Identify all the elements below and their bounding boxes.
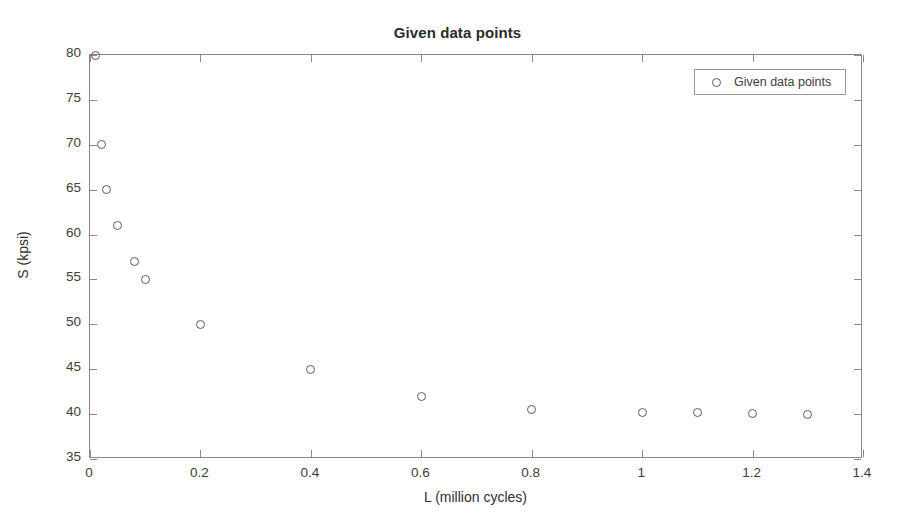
x-axis-tick [532,450,533,457]
y-axis-tick [90,459,97,460]
x-tick-label: 0.2 [169,465,229,480]
y-axis-tick [90,369,97,370]
legend-circle-marker-icon [712,78,721,87]
x-axis-tick [642,450,643,457]
y-axis-tick [90,279,97,280]
x-axis-tick [863,450,864,457]
x-axis-tick [90,450,91,457]
data-point-marker [196,320,205,329]
y-axis-tick-right [854,459,861,460]
y-axis-tick [90,190,97,191]
x-axis-tick-top [753,55,754,62]
x-tick-label: 1 [611,465,671,480]
data-point-marker [97,140,106,149]
y-tick-label: 75 [47,90,81,105]
y-tick-label: 70 [47,135,81,150]
y-tick-label: 80 [47,45,81,60]
x-axis-tick [753,450,754,457]
data-point-marker [693,408,702,417]
x-axis-tick [311,450,312,457]
data-point-marker [141,275,150,284]
y-axis-tick-right [854,279,861,280]
x-axis-tick [200,450,201,457]
x-axis-tick-top [421,55,422,62]
y-axis-tick [90,235,97,236]
legend-entry-label: Given data points [734,75,831,89]
data-point-marker [113,221,122,230]
y-axis-tick-right [854,324,861,325]
data-point-marker [803,410,812,419]
x-tick-label: 1.2 [722,465,782,480]
y-tick-label: 50 [47,314,81,329]
x-axis-tick [421,450,422,457]
y-axis-tick [90,100,97,101]
x-axis-tick-top [532,55,533,62]
x-axis-tick-top [200,55,201,62]
figure-canvas: Given data points 35404550556065707580 0… [0,0,915,526]
y-axis-tick-right [854,369,861,370]
x-axis-title: L (million cycles) [89,489,862,505]
y-axis-tick-right [854,235,861,236]
x-axis-tick-top [863,55,864,62]
x-tick-label: 0.6 [390,465,450,480]
y-tick-label: 55 [47,269,81,284]
y-axis-title: S (kpsi) [15,185,31,325]
y-axis-tick [90,145,97,146]
legend-box[interactable]: Given data points [694,69,846,95]
y-axis-tick [90,324,97,325]
data-point-marker [748,409,757,418]
x-tick-label: 0.8 [501,465,561,480]
x-axis-tick-top [311,55,312,62]
plot-area [89,54,862,458]
y-tick-label: 60 [47,225,81,240]
x-axis-tick-top [642,55,643,62]
y-tick-label: 35 [47,449,81,464]
x-tick-label: 0 [59,465,119,480]
y-axis-tick [90,414,97,415]
data-point-marker [638,408,647,417]
data-point-marker [91,51,100,60]
y-axis-tick-right [854,145,861,146]
x-tick-label: 0.4 [280,465,340,480]
y-axis-tick-right [854,190,861,191]
y-tick-label: 65 [47,180,81,195]
x-tick-label: 1.4 [832,465,892,480]
data-point-marker [130,257,139,266]
y-axis-tick-right [854,55,861,56]
data-point-marker [306,365,315,374]
data-point-marker [102,185,111,194]
data-point-marker [417,392,426,401]
y-tick-label: 40 [47,404,81,419]
data-point-marker [527,405,536,414]
chart-title: Given data points [0,24,915,41]
y-tick-label: 45 [47,359,81,374]
y-axis-tick-right [854,100,861,101]
y-axis-tick-right [854,414,861,415]
